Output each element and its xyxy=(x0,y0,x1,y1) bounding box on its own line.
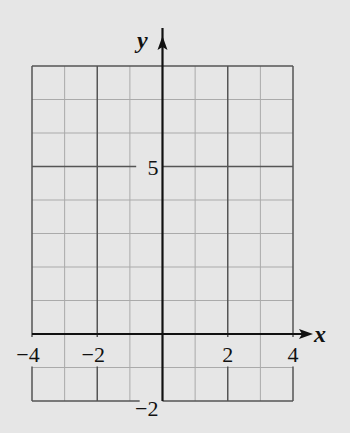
x-axis-label: x xyxy=(313,321,326,347)
x-tick-label: −2 xyxy=(82,342,105,367)
tick-labels: −4−2245−2 xyxy=(16,155,298,422)
y-axis-label: y xyxy=(134,27,148,53)
x-tick-label: −4 xyxy=(16,342,39,367)
axes xyxy=(32,28,313,401)
x-tick-label: 4 xyxy=(288,342,299,367)
y-tick-label: 5 xyxy=(148,155,159,180)
coordinate-grid: −4−2245−2 y x xyxy=(0,0,350,433)
y-tick-label: −2 xyxy=(135,396,158,421)
x-tick-label: 2 xyxy=(222,342,233,367)
